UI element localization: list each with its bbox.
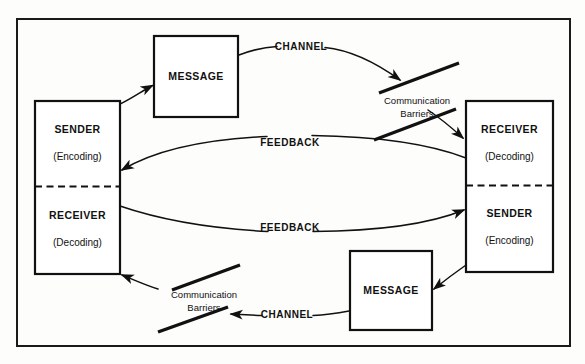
left-party-bottom-role: RECEIVER xyxy=(49,209,106,221)
arrow-left-sender-to-message xyxy=(120,86,153,105)
barrier-bar-bottom-left-upper xyxy=(172,265,240,290)
feedback-lower-label: FEEDBACK xyxy=(260,222,320,233)
barrier-top-right-line-two: Barriers xyxy=(400,108,434,119)
left-party-top-function: (Encoding) xyxy=(53,151,101,162)
right-party-bottom-role: SENDER xyxy=(486,207,532,219)
arrow-right-sender-to-message xyxy=(434,265,466,289)
feedback-lower-right-seg xyxy=(313,210,464,232)
feedback-upper-right-seg xyxy=(312,136,466,159)
right-party-bottom-function: (Encoding) xyxy=(485,235,533,246)
diagram-canvas: SENDER (Encoding) RECEIVER (Decoding) RE… xyxy=(0,0,585,364)
right-party-top-function: (Decoding) xyxy=(485,151,534,162)
barrier-top-right-line-one: Communication xyxy=(384,95,450,106)
right-party-top-role: RECEIVER xyxy=(481,123,538,135)
communication-model-figure: SENDER (Encoding) RECEIVER (Decoding) RE… xyxy=(0,0,585,364)
feedback-upper-left-seg xyxy=(122,137,267,171)
left-party-top-role: SENDER xyxy=(54,123,100,135)
arrow-barrier-to-left-receiver xyxy=(122,275,158,289)
left-party-bottom-function: (Decoding) xyxy=(53,237,102,248)
channel-bottom-label: CHANNEL xyxy=(261,309,313,320)
feedback-upper-label: FEEDBACK xyxy=(260,137,320,148)
channel-bottom-line-left xyxy=(231,314,262,316)
channel-top-label: CHANNEL xyxy=(275,41,327,52)
feedback-lower-left-seg xyxy=(120,206,268,232)
message-bottom-label: MESSAGE xyxy=(363,284,418,296)
channel-bottom-line-right xyxy=(313,311,349,316)
channel-top-line-left xyxy=(239,47,277,56)
channel-top-line-right xyxy=(325,48,400,81)
barrier-bottom-left-line-one: Communication xyxy=(171,289,237,300)
barrier-bar-top-right-upper xyxy=(379,63,459,93)
barrier-bottom-left-line-two: Barriers xyxy=(187,302,221,313)
message-top-label: MESSAGE xyxy=(168,70,223,82)
